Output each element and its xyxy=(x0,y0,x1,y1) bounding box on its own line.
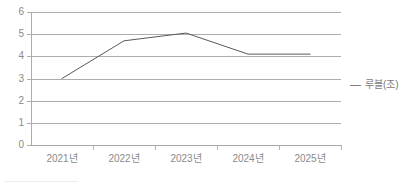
y-axis-label-6: 6 xyxy=(18,7,31,17)
bottom-divider xyxy=(4,181,78,182)
chart-legend: 루블(조) xyxy=(350,79,399,91)
y-axis-label-0: 0 xyxy=(18,140,31,150)
x-tick-2 xyxy=(155,145,156,150)
x-tick-1 xyxy=(93,145,94,150)
y-axis-label-5: 5 xyxy=(18,29,31,39)
legend-line-marker-icon xyxy=(350,85,361,86)
x-axis-label-2: 2023년 xyxy=(170,153,201,165)
x-axis-label-1: 2022년 xyxy=(108,153,139,165)
legend-label-ruble: 루블(조) xyxy=(365,79,399,91)
gridline-0 xyxy=(31,145,341,146)
x-tick-4 xyxy=(279,145,280,150)
x-axis-label-0: 2021년 xyxy=(46,153,77,165)
y-axis-label-2: 2 xyxy=(18,96,31,106)
line-chart: 0123456 2021년2022년2023년2024년2025년 루블(조) xyxy=(0,0,406,190)
x-tick-5 xyxy=(341,145,342,150)
x-tick-3 xyxy=(217,145,218,150)
x-axis-label-4: 2025년 xyxy=(294,153,325,165)
y-axis-label-4: 4 xyxy=(18,51,31,61)
series-line-ruble xyxy=(62,33,310,78)
y-axis-label-3: 3 xyxy=(18,74,31,84)
y-axis-label-1: 1 xyxy=(18,118,31,128)
series-layer xyxy=(31,12,341,145)
x-axis-label-3: 2024년 xyxy=(232,153,263,165)
plot-area xyxy=(31,12,341,145)
